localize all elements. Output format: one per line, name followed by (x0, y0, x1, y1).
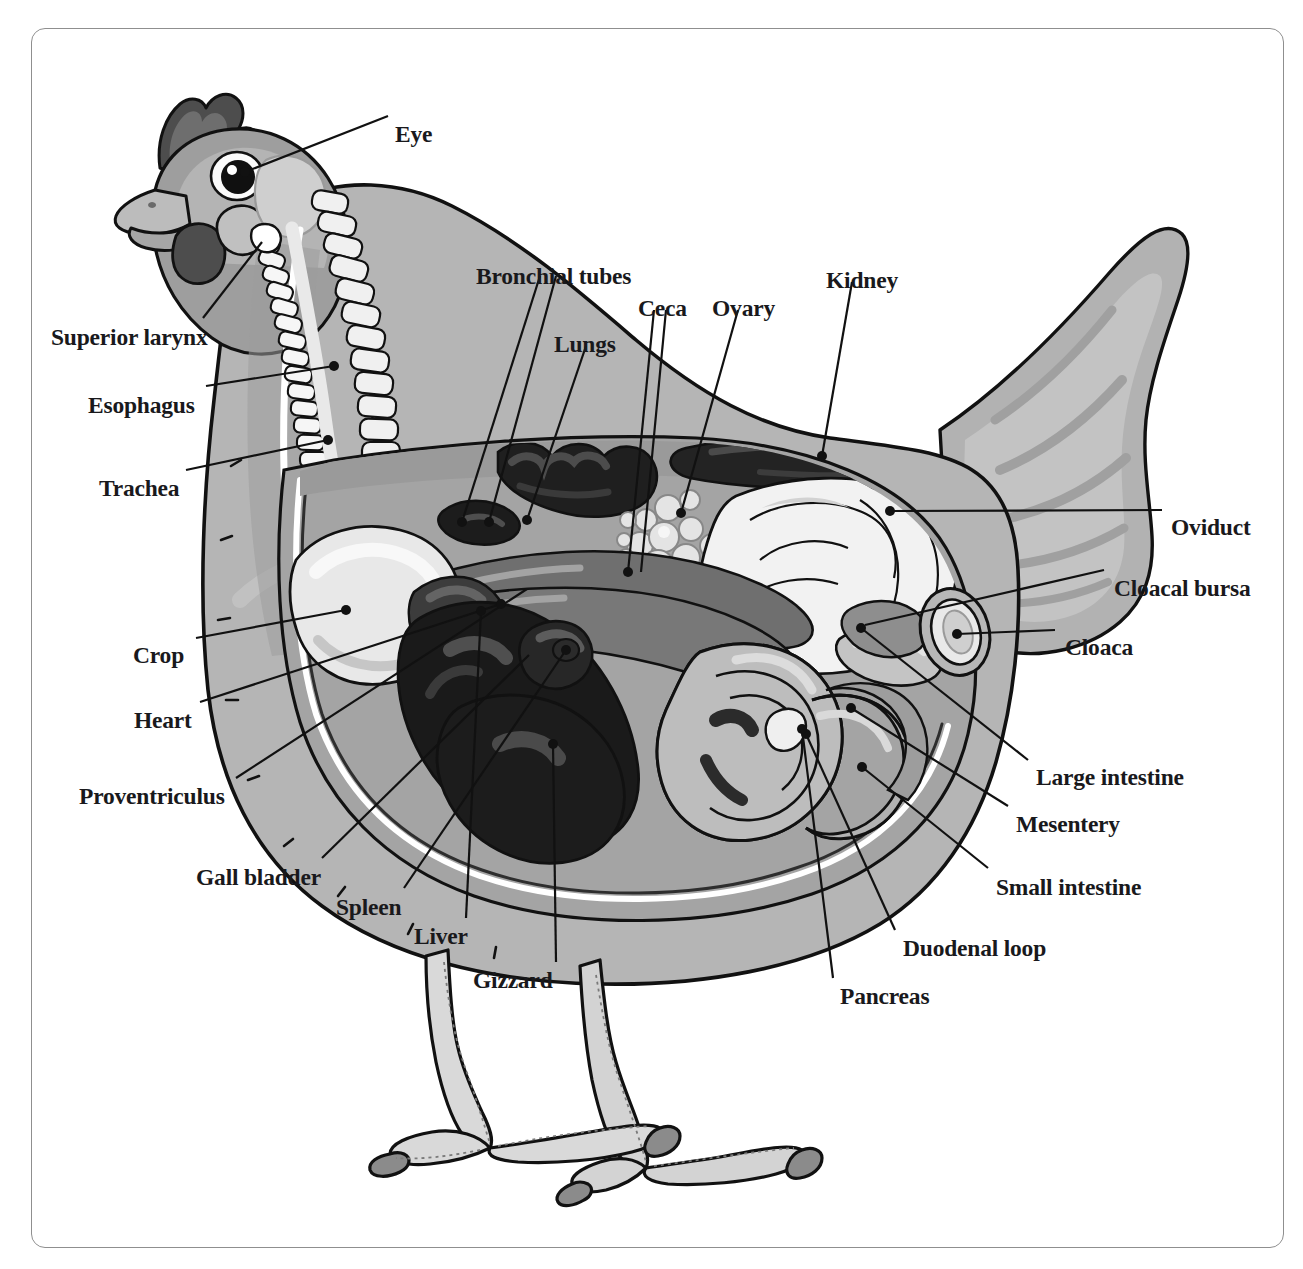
label-lungs: Lungs (554, 333, 616, 357)
label-small-intestine: Small intestine (996, 876, 1141, 900)
label-bronchial-tubes: Bronchial tubes (476, 265, 631, 289)
superior-larynx-organ (251, 224, 281, 252)
label-esophagus: Esophagus (88, 394, 195, 418)
label-mesentery: Mesentery (1016, 813, 1120, 837)
label-oviduct: Oviduct (1171, 516, 1251, 540)
label-trachea: Trachea (99, 477, 179, 501)
label-ceca: Ceca (638, 297, 687, 321)
label-superior-larynx: Superior larynx (51, 326, 208, 350)
label-cloacal-bursa: Cloacal bursa (1114, 577, 1250, 601)
label-large-intestine: Large intestine (1036, 766, 1184, 790)
diagram-page: EyeBronchial tubesCecaOvaryKidneyLungsSu… (0, 0, 1303, 1269)
legs-and-feet (370, 950, 822, 1206)
label-gizzard: Gizzard (473, 969, 553, 993)
eye-pupil (221, 160, 255, 194)
label-cloaca: Cloaca (1065, 636, 1133, 660)
label-duodenal-loop: Duodenal loop (903, 937, 1046, 961)
label-heart: Heart (134, 709, 192, 733)
label-eye: Eye (395, 123, 432, 147)
beak-upper (115, 190, 190, 235)
label-crop: Crop (133, 644, 184, 668)
label-liver: Liver (414, 925, 468, 949)
label-spleen: Spleen (336, 896, 401, 920)
label-proventriculus: Proventriculus (79, 785, 225, 809)
eye-highlight (227, 165, 237, 175)
label-ovary: Ovary (712, 297, 775, 321)
label-pancreas: Pancreas (840, 985, 929, 1009)
label-gall-bladder: Gall bladder (196, 866, 321, 890)
label-kidney: Kidney (826, 269, 898, 293)
